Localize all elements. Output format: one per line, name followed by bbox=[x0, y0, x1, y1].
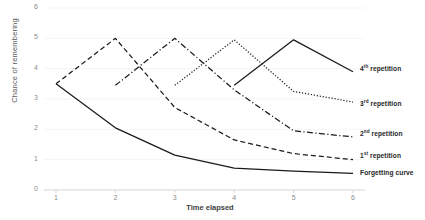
legend-item-label: repetition bbox=[370, 130, 403, 137]
legend-item-fourth-repetition: 4th repetition bbox=[360, 64, 401, 72]
forgetting-curve-chart: Chance of remembering Time elapsed 01234… bbox=[0, 0, 425, 220]
y-tick-label: 5 bbox=[24, 33, 38, 40]
plot-area bbox=[0, 0, 425, 220]
legend-item-first-repetition: 1st repetition bbox=[360, 151, 401, 159]
legend-item-label: repetition bbox=[368, 65, 401, 72]
legend-item-label: repetition bbox=[369, 100, 402, 107]
legend-item-forgetting-curve: Forgetting curve bbox=[360, 169, 414, 176]
y-tick-label: 1 bbox=[24, 155, 38, 162]
series-lines bbox=[56, 38, 353, 173]
axis-lines bbox=[44, 190, 365, 193]
x-tick-label: 3 bbox=[168, 194, 182, 201]
x-tick-label: 6 bbox=[346, 194, 360, 201]
series-line bbox=[234, 40, 353, 86]
series-line bbox=[175, 40, 353, 102]
y-tick-label: 2 bbox=[24, 124, 38, 131]
y-tick-label: 6 bbox=[24, 3, 38, 10]
y-tick-label: 0 bbox=[24, 185, 38, 192]
x-tick-label: 1 bbox=[49, 194, 63, 201]
x-axis-title: Time elapsed bbox=[120, 203, 300, 212]
legend-item-second-repetition: 2nd repetition bbox=[360, 129, 403, 137]
y-tick-label: 3 bbox=[24, 94, 38, 101]
legend-item-third-repetition: 3rd repetition bbox=[360, 99, 402, 107]
x-tick-label: 2 bbox=[108, 194, 122, 201]
legend-item-label: repetition bbox=[368, 152, 401, 159]
x-tick-label: 4 bbox=[227, 194, 241, 201]
x-tick-label: 5 bbox=[287, 194, 301, 201]
y-tick-label: 4 bbox=[24, 64, 38, 71]
gridlines bbox=[44, 8, 365, 190]
y-axis-title: Chance of remembering bbox=[10, 1, 19, 121]
